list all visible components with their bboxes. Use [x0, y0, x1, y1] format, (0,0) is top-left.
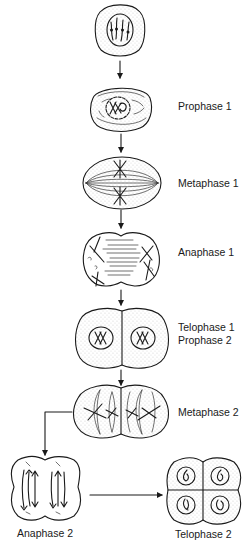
label-anaphase1: Anaphase 1 [178, 246, 234, 259]
anaphase2-cell [11, 457, 80, 521]
telophase1-cell [76, 308, 169, 368]
meiosis-diagram: Prophase 1 Metaphase 1 Anaphase 1 Teloph… [0, 0, 246, 546]
metaphase1-cell [83, 157, 161, 209]
chromosomes [21, 462, 67, 514]
spindle-fibers [103, 240, 140, 275]
diagram-canvas [0, 0, 246, 546]
arrow-metaphase2-to-anaphase2 [45, 412, 72, 455]
telophase2-cells [167, 458, 241, 524]
label-anaphase2: Anaphase 2 [17, 527, 73, 540]
chromosomes [88, 237, 154, 286]
metaphase2-cell [74, 385, 169, 438]
interphase-cell [95, 5, 145, 56]
label-metaphase2: Metaphase 2 [178, 406, 239, 419]
label-prophase2: Prophase 2 [178, 334, 232, 347]
anaphase1-cell [83, 233, 159, 286]
label-telophase1: Telophase 1 [178, 321, 235, 334]
prophase1-cell [91, 88, 152, 131]
label-metaphase1: Metaphase 1 [178, 177, 239, 190]
label-telophase2: Telophase 2 [175, 528, 232, 541]
label-prophase1: Prophase 1 [178, 100, 232, 113]
